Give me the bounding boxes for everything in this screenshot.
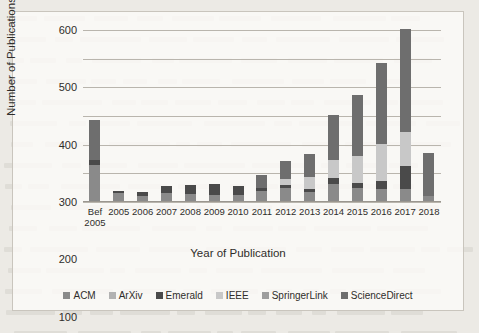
x-tick-label: 2017	[393, 206, 417, 236]
bar-segment-acm	[352, 188, 363, 202]
bar-segment-sciencedirect	[352, 95, 363, 156]
stacked-bar[interactable]	[423, 153, 434, 202]
x-tick-label: 2012	[274, 206, 298, 236]
bar-segment-ieee	[400, 132, 411, 166]
bar-group	[393, 30, 417, 202]
bar-group	[107, 30, 131, 202]
legend-item-ieee[interactable]: IEEE	[216, 290, 249, 301]
x-tick-label: 2010	[226, 206, 250, 236]
x-axis-line	[83, 201, 441, 202]
legend-item-acm[interactable]: ACM	[63, 290, 95, 301]
bar-segment-sciencedirect	[256, 175, 267, 189]
x-tick-label: Bef2005	[83, 206, 107, 236]
y-axis-tick-label: 100	[59, 311, 77, 323]
y-axis-tick-label: 600	[59, 24, 77, 36]
stacked-bar[interactable]	[256, 175, 267, 203]
legend-label: Emerald	[166, 290, 203, 301]
stacked-bar[interactable]	[280, 161, 291, 202]
bar-segment-acm	[280, 188, 291, 202]
x-tick-label: 2011	[250, 206, 274, 236]
legend-item-emerald[interactable]: Emerald	[156, 290, 203, 301]
bar-segment-sciencedirect	[89, 120, 100, 160]
x-tick-label: 2007	[155, 206, 179, 236]
legend-label: IEEE	[226, 290, 249, 301]
x-tick-label: 2008	[178, 206, 202, 236]
bar-group	[202, 30, 226, 202]
bar-segment-acm	[89, 165, 100, 202]
bar-segment-emerald	[161, 186, 172, 193]
stacked-bar[interactable]	[185, 185, 196, 202]
bar-segment-emerald	[185, 185, 196, 194]
stacked-bar[interactable]	[376, 63, 387, 202]
x-tick-label: 2015	[345, 206, 369, 236]
legend-label: ACM	[73, 290, 95, 301]
x-axis-title: Year of Publication	[13, 247, 463, 259]
bar-segment-sciencedirect	[376, 63, 387, 144]
bar-group	[83, 30, 107, 202]
bar-group	[417, 30, 441, 202]
stacked-bar[interactable]	[328, 115, 339, 202]
bar-segment-emerald	[376, 181, 387, 189]
bar-group	[155, 30, 179, 202]
bar-segment-emerald	[209, 184, 220, 195]
x-tick-label: 2005	[107, 206, 131, 236]
legend-label: ArXiv	[119, 290, 143, 301]
x-axis-tick-labels: Bef2005200520062007200820092010201120122…	[83, 206, 441, 236]
legend-swatch-icon	[262, 292, 269, 299]
legend-swatch-icon	[63, 292, 70, 299]
legend-swatch-icon	[109, 292, 116, 299]
bar-group	[226, 30, 250, 202]
bar-segment-sciencedirect	[304, 154, 315, 177]
x-tick-label: 2006	[131, 206, 155, 236]
bar-segment-sciencedirect	[423, 153, 434, 195]
bar-group	[345, 30, 369, 202]
legend-label: ScienceDirect	[351, 290, 413, 301]
plot-area: 0100200300400500600	[83, 30, 441, 202]
x-tick-label: 2018	[417, 206, 441, 236]
legend-item-springerlink[interactable]: SpringerLink	[262, 290, 328, 301]
stacked-bar[interactable]	[352, 95, 363, 202]
bar-segment-sciencedirect	[400, 29, 411, 132]
bar-group	[250, 30, 274, 202]
bar-segment-ieee	[376, 144, 387, 181]
legend-swatch-icon	[216, 292, 223, 299]
stacked-bar[interactable]	[304, 154, 315, 202]
chart-figure: Number of Publications 01002003004005006…	[12, 11, 464, 311]
x-tick-label: 2016	[369, 206, 393, 236]
stacked-bar[interactable]	[161, 186, 172, 202]
x-tick-label: 2014	[322, 206, 346, 236]
bar-segment-sciencedirect	[280, 161, 291, 179]
bar-segment-ieee	[304, 177, 315, 189]
legend-swatch-icon	[156, 292, 163, 299]
bar-segment-sciencedirect	[328, 115, 339, 160]
bar-group	[274, 30, 298, 202]
bar-group	[369, 30, 393, 202]
bar-segment-acm	[328, 184, 339, 202]
legend-swatch-icon	[341, 292, 348, 299]
bar-segment-emerald	[400, 166, 411, 189]
legend-item-sciencedirect[interactable]: ScienceDirect	[341, 290, 413, 301]
bar-segment-ieee	[328, 160, 339, 178]
x-tick-label: 2009	[202, 206, 226, 236]
y-axis-title: Number of Publications	[5, 0, 17, 116]
bar-segment-ieee	[352, 156, 363, 182]
stacked-bar[interactable]	[209, 184, 220, 202]
stacked-bar[interactable]	[400, 29, 411, 202]
x-tick-label: 2013	[298, 206, 322, 236]
stacked-bar[interactable]	[89, 120, 100, 202]
bar-group	[178, 30, 202, 202]
legend-item-arxiv[interactable]: ArXiv	[109, 290, 143, 301]
bar-series-container	[83, 30, 441, 202]
bar-group	[322, 30, 346, 202]
bar-group	[298, 30, 322, 202]
bar-group	[131, 30, 155, 202]
y-axis-tick-label: 400	[59, 139, 77, 151]
gridline: 0	[83, 202, 441, 203]
legend-label: SpringerLink	[272, 290, 328, 301]
y-axis-tick-label: 300	[59, 196, 77, 208]
bar-segment-emerald	[233, 186, 244, 195]
chart-legend: ACMArXivEmeraldIEEESpringerLinkScienceDi…	[13, 290, 463, 301]
y-axis-tick-label: 500	[59, 81, 77, 93]
stacked-bar[interactable]	[233, 186, 244, 202]
